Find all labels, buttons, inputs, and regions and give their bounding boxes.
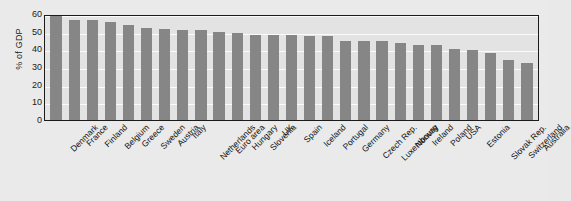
bar-fill: [467, 50, 478, 120]
y-tick-30: 30: [32, 63, 42, 72]
bar-iceland: [301, 16, 319, 120]
bar-czech-rep: [355, 16, 373, 120]
bar-norway: [391, 16, 409, 120]
x-axis-tick-labels: DenmarkFranceFinlandBelgiumGreeceSwedenA…: [44, 123, 539, 201]
bar-germany: [337, 16, 355, 120]
bar-fill: [213, 32, 224, 120]
bar-fill: [50, 15, 61, 120]
bar-usa: [445, 16, 463, 120]
bar-slovenia: [246, 16, 264, 120]
bar-italy: [174, 16, 192, 120]
bar-australia: [518, 16, 536, 120]
bar-fill: [395, 43, 406, 120]
plot-area: [44, 15, 539, 121]
bar-fill: [268, 35, 279, 120]
y-tick-20: 20: [32, 80, 42, 89]
bar-ireland: [409, 16, 427, 120]
y-tick-50: 50: [32, 27, 42, 36]
bar-uk: [264, 16, 282, 120]
bar-poland: [427, 16, 445, 120]
bar-fill: [376, 41, 387, 120]
bar-spain: [282, 16, 300, 120]
bar-finland: [83, 16, 101, 120]
bar-greece: [119, 16, 137, 120]
bar-netherlands: [192, 16, 210, 120]
bar-slovak-rep: [482, 16, 500, 120]
bar-fill: [449, 49, 460, 120]
bar-denmark: [47, 16, 65, 120]
bar-hungary: [228, 16, 246, 120]
y-tick-60: 60: [32, 10, 42, 19]
bar-fill: [87, 20, 98, 120]
bar-fill: [503, 60, 514, 120]
bar-sweden: [138, 16, 156, 120]
bar-fill: [286, 35, 297, 120]
bar-fill: [322, 36, 333, 120]
bar-portugal: [319, 16, 337, 120]
bar-fill: [358, 41, 369, 120]
y-tick-0: 0: [37, 116, 42, 125]
bar-fill: [304, 36, 315, 120]
bar-fill: [431, 45, 442, 120]
bar-fill: [485, 53, 496, 120]
bar-belgium: [101, 16, 119, 120]
bar-switzerland: [500, 16, 518, 120]
bar-series: [45, 16, 538, 120]
bar-fill: [195, 30, 206, 120]
bar-fill: [232, 33, 243, 120]
bar-fill: [141, 28, 152, 120]
bar-estonia: [464, 16, 482, 120]
y-axis-title: % of GDP: [14, 4, 24, 94]
y-axis-tick-labels: 0102030405060: [24, 14, 42, 122]
y-tick-40: 40: [32, 45, 42, 54]
bar-fill: [123, 25, 134, 120]
bar-fill: [159, 29, 170, 120]
bar-france: [65, 16, 83, 120]
x-tick-estonia: Estonia: [486, 123, 512, 149]
bar-fill: [177, 30, 188, 120]
bar-austria: [156, 16, 174, 120]
bar-fill: [105, 22, 116, 120]
bar-fill: [413, 45, 424, 120]
bar-fill: [521, 63, 532, 120]
bar-fill: [340, 41, 351, 121]
bar-fill: [250, 35, 261, 120]
bar-luxembourg: [373, 16, 391, 120]
y-tick-10: 10: [32, 98, 42, 107]
bar-euro-area: [210, 16, 228, 120]
bar-fill: [69, 20, 80, 120]
